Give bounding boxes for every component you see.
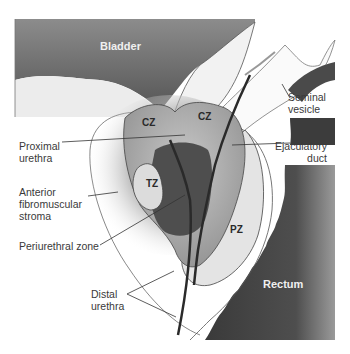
label-periurethral-zone: Periurethral zone <box>19 240 99 252</box>
label-rectum: Rectum <box>263 278 303 290</box>
label-cz-left: CZ <box>142 117 155 129</box>
prostate-anatomy-diagram <box>0 0 350 354</box>
label-cz-right: CZ <box>198 111 211 123</box>
label-bladder: Bladder <box>100 40 141 52</box>
label-anterior-fibromuscular-stroma: Anterior fibromuscular stroma <box>19 186 82 222</box>
label-pz: PZ <box>230 224 243 236</box>
label-distal-urethra: Distal urethra <box>91 288 124 312</box>
label-proximal-urethra: Proximal urethra <box>19 140 60 164</box>
label-seminal-vesicle: Seminal vesicle <box>288 91 326 115</box>
label-tz: TZ <box>146 178 158 190</box>
label-ejaculatory-duct: Ejaculatory duct <box>275 140 327 164</box>
